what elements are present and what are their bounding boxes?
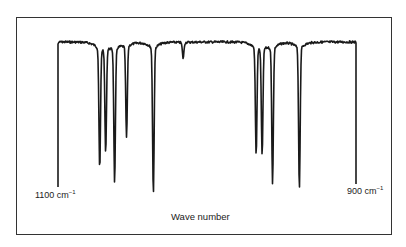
x-tick-label-900: 900 cm−1 [347, 185, 383, 196]
spectrum-trace [58, 41, 356, 192]
x-tick-label-1100: 1100 cm−1 [35, 189, 76, 200]
spectrum-plot [0, 0, 406, 247]
x-axis-label: Wave number [171, 211, 230, 222]
